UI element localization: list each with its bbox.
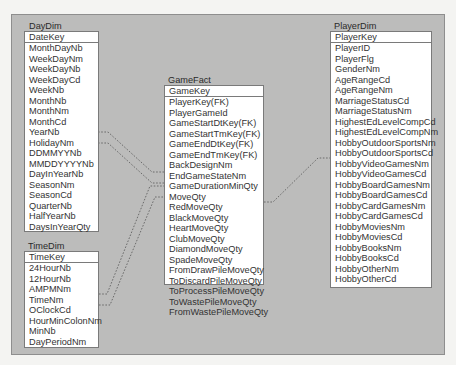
entity-title: TimeDim	[28, 241, 64, 251]
entity-field[interactable]: MMDDYYYYNb	[25, 159, 98, 170]
primary-key-field[interactable]: PlayerKey	[331, 32, 431, 43]
entity-field[interactable]: HobbyOutdoorSportsNm	[331, 138, 431, 149]
entity-field[interactable]: HobbyVideoGamesNm	[331, 159, 431, 170]
entity-field[interactable]: ToWastePileMoveQty	[165, 297, 263, 308]
entity-field[interactable]: HobbyVideoGamesCd	[331, 169, 431, 180]
entity-fields: GameKey PlayerKey(FK)PlayerGameIdGameSta…	[164, 85, 264, 285]
entity-field[interactable]: WeekDayCd	[25, 75, 98, 86]
entity-field[interactable]: HobbyCardGamesNm	[331, 201, 431, 212]
primary-key-field[interactable]: GameKey	[165, 86, 263, 97]
entity-field[interactable]: ClubMoveQty	[165, 234, 263, 245]
entity-field[interactable]: FromWastePileMoveQty	[165, 307, 263, 318]
entity-field[interactable]: DaysInYearQty	[25, 222, 98, 233]
entity-field[interactable]: 24HourNb	[25, 263, 98, 274]
entity-field[interactable]: SeasonCd	[25, 190, 98, 201]
entity-field[interactable]: WeekNb	[25, 85, 98, 96]
entity-field[interactable]: HobbyBooksNm	[331, 243, 431, 254]
entity-field[interactable]: DayInYearNb	[25, 169, 98, 180]
entity-title: PlayerDim	[334, 21, 376, 31]
entity-field[interactable]: MonthNb	[25, 96, 98, 107]
entity-fields: PlayerKey PlayerIDPlayerFlgGenderNmAgeRa…	[330, 31, 432, 288]
entity-field[interactable]: GameEndDtKey(FK)	[165, 139, 263, 150]
entity-field[interactable]: HighestEdLevelCompCd	[331, 117, 431, 128]
entity-field[interactable]: HobbyBoardGamesCd	[331, 190, 431, 201]
entity-field[interactable]: BlackMoveQty	[165, 213, 263, 224]
entity-field[interactable]: FromDrawPileMoveQty	[165, 265, 263, 276]
entity-field[interactable]: MoveQty	[165, 192, 263, 203]
entity-field[interactable]: YearNb	[25, 127, 98, 138]
entity-field[interactable]: HighestEdLevelCompNm	[331, 127, 431, 138]
entity-field[interactable]: ToProcessPileMoveQty	[165, 286, 263, 297]
entity-field[interactable]: WeekDayNb	[25, 64, 98, 75]
entity-field[interactable]: HobbyMoviesNm	[331, 222, 431, 233]
entity-field[interactable]: DiamondMoveQty	[165, 244, 263, 255]
entity-field[interactable]: ToDiscardPileMoveQty	[165, 276, 263, 287]
entity-title: DayDim	[29, 21, 62, 31]
entity-field[interactable]: MarriageStatusNm	[331, 106, 431, 117]
entity-field[interactable]: HourMinColonNm	[25, 316, 98, 327]
entity-field[interactable]: EndGameStateNm	[165, 171, 263, 182]
entity-field[interactable]: PlayerID	[331, 43, 431, 54]
entity-field[interactable]: DDMMYYNb	[25, 148, 98, 159]
primary-key-field[interactable]: DateKey	[25, 32, 98, 43]
entity-field[interactable]: WeekDayNm	[25, 54, 98, 65]
entity-field[interactable]: MonthDayNb	[25, 43, 98, 54]
entity-field[interactable]: HobbyOutdoorSportsCd	[331, 148, 431, 159]
entity-title: GameFact	[168, 75, 211, 85]
entity-field[interactable]: HobbyCardGamesCd	[331, 211, 431, 222]
entity-field[interactable]: HobbyBoardGamesNm	[331, 180, 431, 191]
entity-field[interactable]: QuarterNb	[25, 201, 98, 212]
entity-field[interactable]: RedMoveQty	[165, 202, 263, 213]
entity-field[interactable]: GameEndTmKey(FK)	[165, 150, 263, 161]
entity-field[interactable]: HobbyOtherNm	[331, 264, 431, 275]
entity-field[interactable]: BackDesignNm	[165, 160, 263, 171]
entity-field[interactable]: DayPeriodNm	[25, 337, 98, 348]
entity-fields: DateKey MonthDayNbWeekDayNmWeekDayNbWeek…	[24, 31, 99, 232]
entity-field[interactable]: HobbyOtherCd	[331, 274, 431, 285]
primary-key-field[interactable]: TimeKey	[25, 252, 98, 263]
entity-field[interactable]: OClockCd	[25, 305, 98, 316]
entity-field[interactable]: GameStartDtKey(FK)	[165, 118, 263, 129]
entity-field[interactable]: HobbyBooksCd	[331, 253, 431, 264]
entity-field[interactable]: HeartMoveQty	[165, 223, 263, 234]
entity-field[interactable]: HalfYearNb	[25, 211, 98, 222]
entity-field[interactable]: AgeRangeNm	[331, 85, 431, 96]
entity-field[interactable]: TimeNm	[25, 295, 98, 306]
entity-field[interactable]: HobbyMoviesCd	[331, 232, 431, 243]
entity-field[interactable]: AMPMNm	[25, 284, 98, 295]
entity-field[interactable]: 12HourNb	[25, 274, 98, 285]
entity-field[interactable]: GameStartTmKey(FK)	[165, 129, 263, 140]
entity-field[interactable]: MonthCd	[25, 117, 98, 128]
entity-field[interactable]: AgeRangeCd	[331, 75, 431, 86]
entity-field[interactable]: PlayerFlg	[331, 54, 431, 65]
entity-field[interactable]: MonthNm	[25, 106, 98, 117]
entity-field[interactable]: SpadeMoveQty	[165, 255, 263, 266]
entity-field[interactable]: MarriageStatusCd	[331, 96, 431, 107]
entity-fields: TimeKey 24HourNb12HourNbAMPMNmTimeNmOClo…	[24, 251, 99, 348]
entity-field[interactable]: GenderNm	[331, 64, 431, 75]
entity-field[interactable]: PlayerKey(FK)	[165, 97, 263, 108]
entity-field[interactable]: SeasonNm	[25, 180, 98, 191]
entity-field[interactable]: MinNb	[25, 326, 98, 337]
entity-field[interactable]: HolidayNm	[25, 138, 98, 149]
entity-field[interactable]: GameDurationMinQty	[165, 181, 263, 192]
entity-field[interactable]: PlayerGameId	[165, 108, 263, 119]
